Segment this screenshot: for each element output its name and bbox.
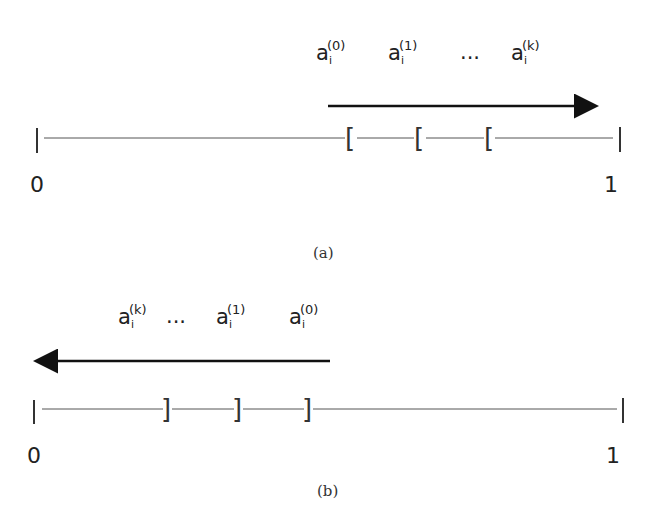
a-bracket-0: [ xyxy=(345,125,355,151)
a-end-label: 1 xyxy=(604,172,618,197)
a-label-1: ai(1) xyxy=(388,38,417,67)
b-caption: (b) xyxy=(317,482,338,500)
b-bracket-k: ] xyxy=(161,396,171,422)
b-label-1: ai(1) xyxy=(216,302,245,331)
a-label-k: ai(k) xyxy=(511,38,540,67)
diagram-lines xyxy=(0,0,652,528)
b-bracket-0: ] xyxy=(302,396,312,422)
b-label-0: ai(0) xyxy=(289,302,318,331)
b-end-label: 1 xyxy=(606,443,620,468)
a-ellipsis: ... xyxy=(460,40,480,64)
a-start-label: 0 xyxy=(30,172,44,197)
b-start-label: 0 xyxy=(27,443,41,468)
a-bracket-1: [ xyxy=(414,125,424,151)
b-bracket-1: ] xyxy=(232,396,242,422)
b-ellipsis: ... xyxy=(166,304,186,328)
a-label-0: ai(0) xyxy=(316,38,345,67)
a-bracket-k: [ xyxy=(484,125,494,151)
b-label-k: ai(k) xyxy=(118,302,147,331)
a-caption: (a) xyxy=(313,244,334,262)
